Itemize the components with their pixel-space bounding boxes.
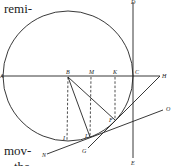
line-BF [68,77,115,120]
label-H: H [161,73,167,79]
label-N: N [41,152,47,158]
line-NO [47,110,163,154]
label-L: L [84,133,89,139]
label-A: A [0,73,4,79]
dashed-BI [67,77,68,140]
line-HG [88,76,160,148]
label-D: D [130,0,136,5]
dashed-ML [90,77,91,137]
line-BL [68,77,90,137]
label-B: B [66,69,70,75]
label-F: F [108,117,113,123]
label-M: M [88,69,95,75]
geometry-diagram: A B M K C H D E F L I G N O [0,0,175,166]
label-K: K [112,69,118,75]
label-O: O [166,106,171,112]
label-C: C [135,69,140,75]
label-G: G [82,148,87,154]
label-I: I [62,135,66,141]
label-E: E [130,160,135,166]
